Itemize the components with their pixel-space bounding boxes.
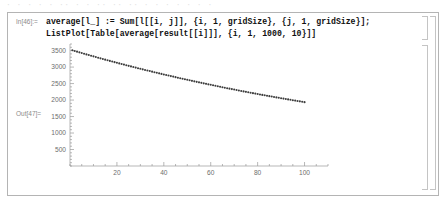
code-line-1: average[l_] := Sum[l[[i, j]], {i, 1, gri… [46,17,370,26]
data-point [106,59,108,61]
data-point [99,57,101,59]
data-point [146,69,148,71]
x-tick-label: 60 [207,169,215,176]
data-point [177,77,179,79]
data-point [130,65,132,67]
data-point [153,71,155,73]
data-point [97,57,99,59]
data-point [301,101,303,103]
data-point [151,71,153,73]
data-point [149,70,151,72]
data-point [170,75,172,77]
data-point [275,96,277,98]
data-point [172,76,174,78]
data-point [85,53,87,55]
data-point [271,96,273,98]
data-point [88,54,90,56]
data-point [245,91,247,93]
data-point [221,86,223,88]
data-point [184,78,186,80]
data-point [193,80,195,82]
data-point [285,98,287,100]
output-cell-bracket[interactable] [422,45,428,190]
data-point [76,51,78,53]
data-point [81,52,83,54]
data-point [165,74,167,76]
ghost-text-strip: · · · · · ·· · · ·· ·· ·· · · · · · · · [0,0,447,11]
data-point [203,82,205,84]
data-point [114,61,116,63]
data-point [182,78,184,80]
data-point [259,93,261,95]
data-point [299,100,301,102]
data-point [160,73,162,75]
cell-group-bracket[interactable] [430,16,436,190]
data-point [228,88,230,90]
input-code-block[interactable]: average[l_] := Sum[l[[i, j]], {i, 1, gri… [46,16,370,39]
x-tick-label: 100 [299,169,310,176]
data-point [196,81,198,83]
plot-svg: 20406080100500100015002000250030003500 [46,39,336,181]
y-tick-label: 500 [55,146,66,153]
input-cell[interactable]: In[46]:= average[l_] := Sum[l[[i, j]], {… [8,15,439,41]
data-point [158,72,160,74]
y-tick-label: 3500 [51,47,66,54]
data-point [109,60,111,62]
data-point [252,92,254,94]
data-point [189,79,191,81]
data-point [219,86,221,88]
data-point [224,87,226,89]
data-point [179,77,181,79]
data-point [121,63,123,65]
data-point [214,85,216,87]
data-point [125,64,127,66]
data-point [226,87,228,89]
data-point [210,84,212,86]
y-tick-label: 1000 [51,129,66,136]
data-point [231,88,233,90]
data-point [212,84,214,86]
data-point [304,101,306,103]
data-point [268,95,270,97]
output-cell-label: Out[47]= [16,110,41,117]
data-point [191,80,193,82]
data-point [250,92,252,94]
data-point [205,83,207,85]
data-point [294,100,296,102]
data-point [142,68,144,70]
data-point [139,68,141,70]
data-point [90,55,92,57]
data-point [116,62,118,64]
x-tick-label: 80 [254,169,262,176]
data-point [95,56,97,58]
data-point [261,94,263,96]
y-tick-label: 1500 [51,113,66,120]
data-point [78,51,80,53]
data-point [175,76,177,78]
data-point [266,95,268,97]
data-point [200,82,202,84]
data-point [247,91,249,93]
data-point [264,94,266,96]
notebook-window: In[46]:= average[l_] := Sum[l[[i, j]], {… [7,12,439,196]
data-point [287,98,289,100]
data-point [273,96,275,98]
data-point [111,60,113,62]
input-cell-bracket[interactable] [422,16,428,40]
data-point [207,83,209,85]
data-point [257,93,259,95]
data-point [123,64,125,66]
data-point [102,58,104,60]
data-point [74,50,76,52]
data-point [132,66,134,68]
data-point [198,81,200,83]
data-point [83,53,85,55]
data-point [135,67,137,69]
data-point [71,49,73,51]
data-point [235,89,237,91]
list-plot-graphic[interactable]: 20406080100500100015002000250030003500 [46,39,336,181]
x-tick-label: 40 [160,169,168,176]
data-point [186,79,188,81]
data-point [92,55,94,57]
x-tick-label: 20 [113,169,121,176]
